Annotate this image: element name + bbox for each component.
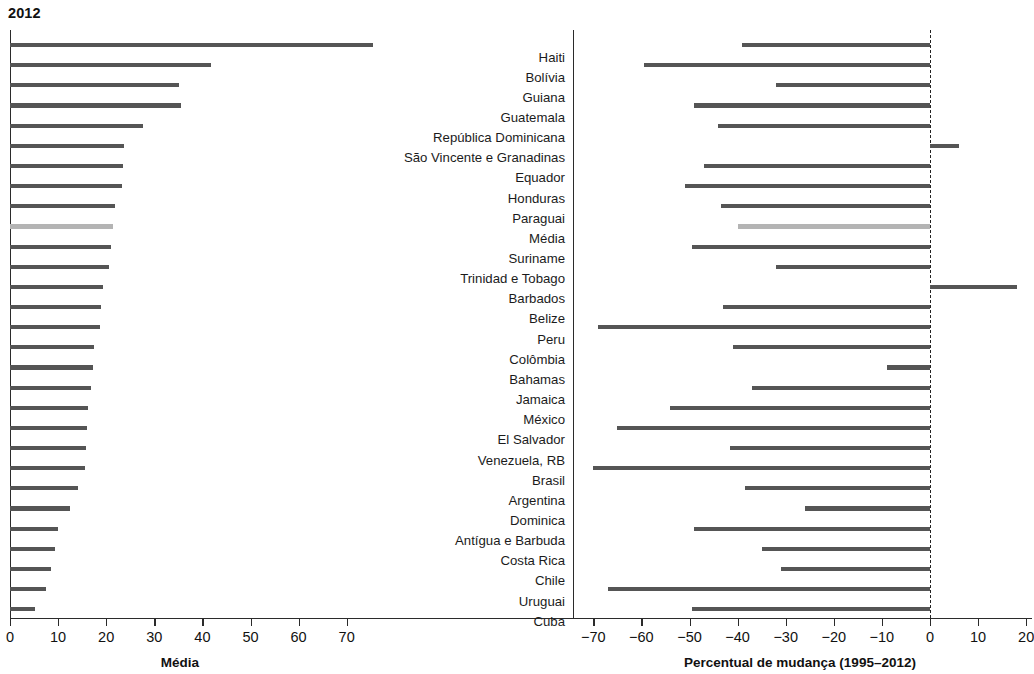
category-label-10: Média <box>330 232 565 245</box>
bar-right-7 <box>704 164 930 168</box>
bar-left-3 <box>10 83 179 87</box>
category-label-18: Jamaica <box>330 393 565 406</box>
category-label-28: Uruguai <box>330 595 565 608</box>
left-axis-tick-label-3: 20 <box>98 629 114 645</box>
left-axis-tick-label-1: 0 <box>6 629 14 645</box>
category-label-8: Honduras <box>330 192 565 205</box>
left-axis-tick-8 <box>347 618 348 626</box>
bar-right-15 <box>598 325 930 329</box>
bar-left-15 <box>10 325 100 329</box>
category-label-13: Barbados <box>330 292 565 305</box>
bar-left-8 <box>10 184 122 188</box>
right-axis-tick-1 <box>593 618 594 626</box>
category-label-1: Haiti <box>330 51 565 64</box>
left-axis-tick-label-4: 30 <box>146 629 162 645</box>
right-axis-tick-8 <box>930 618 931 626</box>
bar-right-3 <box>776 83 930 87</box>
category-label-21: Venezuela, RB <box>330 454 565 467</box>
bar-right-26 <box>762 547 930 551</box>
left-axis-tick-label-5: 40 <box>194 629 210 645</box>
bar-left-4 <box>10 103 181 107</box>
category-label-20: El Salvador <box>330 433 565 446</box>
right-axis-tick-2 <box>641 618 642 626</box>
bar-right-2 <box>644 63 930 67</box>
left-axis-tick-6 <box>251 618 252 626</box>
bar-left-29 <box>10 607 35 611</box>
category-label-19: México <box>330 413 565 426</box>
zero-reference-line <box>930 30 931 618</box>
right-axis-tick-label-10: 20 <box>1018 629 1034 645</box>
bar-left-13 <box>10 285 103 289</box>
bar-right-12 <box>776 265 930 269</box>
category-label-24: Dominica <box>330 514 565 527</box>
bar-left-22 <box>10 466 85 470</box>
bar-left-18 <box>10 386 91 390</box>
bar-left-12 <box>10 265 109 269</box>
right-axis-tick-7 <box>882 618 883 626</box>
bar-left-20 <box>10 426 87 430</box>
category-label-column: HaitiBolíviaGuianaGuatemalaRepública Dom… <box>330 30 565 618</box>
right-axis-tick-label-2: −60 <box>629 629 654 645</box>
page-title: 2012 <box>8 5 41 21</box>
bar-left-28 <box>10 587 46 591</box>
panel-divider-spine <box>573 30 574 618</box>
bar-right-20 <box>617 426 930 430</box>
bar-right-9 <box>721 204 930 208</box>
bar-right-1 <box>742 43 930 47</box>
right-panel-percent-change <box>573 30 1032 618</box>
left-axis-tick-5 <box>202 618 203 626</box>
category-label-16: Colômbia <box>330 353 565 366</box>
category-label-12: Trinidad e Tobago <box>330 272 565 285</box>
right-axis-tick-label-4: −40 <box>725 629 750 645</box>
category-label-23: Argentina <box>330 494 565 507</box>
bar-right-4 <box>694 103 930 107</box>
bar-left-6 <box>10 144 124 148</box>
right-axis-tick-label-7: −10 <box>870 629 895 645</box>
bar-right-17 <box>887 365 930 369</box>
bar-left-9 <box>10 204 115 208</box>
bar-left-19 <box>10 406 88 410</box>
bar-right-22 <box>593 466 930 470</box>
category-label-29: Cuba <box>330 615 565 628</box>
category-label-9: Paraguai <box>330 212 565 225</box>
bar-right-6 <box>930 144 959 148</box>
category-label-5: República Dominicana <box>330 131 565 144</box>
left-axis-tick-label-8: 70 <box>339 629 355 645</box>
bar-right-11 <box>692 245 930 249</box>
right-axis-title: Percentual de mudança (1995–2012) <box>684 655 916 670</box>
bar-right-27 <box>781 567 930 571</box>
bar-left-26 <box>10 547 55 551</box>
left-axis-tick-2 <box>58 618 59 626</box>
bar-right-5 <box>718 124 930 128</box>
category-label-17: Bahamas <box>330 373 565 386</box>
bar-left-10 <box>10 224 113 228</box>
bar-left-17 <box>10 365 93 369</box>
bar-left-5 <box>10 124 143 128</box>
bar-left-24 <box>10 506 70 510</box>
right-axis-tick-label-1: −70 <box>581 629 606 645</box>
category-label-11: Suriname <box>330 252 565 265</box>
bar-right-18 <box>752 386 930 390</box>
bar-right-25 <box>694 527 930 531</box>
bar-left-23 <box>10 486 78 490</box>
bar-right-16 <box>733 345 930 349</box>
left-axis-tick-label-7: 60 <box>291 629 307 645</box>
right-axis-tick-label-5: −30 <box>773 629 798 645</box>
right-axis-tick-10 <box>1026 618 1027 626</box>
category-label-6: São Vincente e Granadinas <box>330 151 565 164</box>
bar-right-21 <box>730 446 930 450</box>
bar-left-2 <box>10 63 211 67</box>
right-axis-tick-9 <box>978 618 979 626</box>
bar-left-16 <box>10 345 94 349</box>
bar-right-10 <box>738 224 930 228</box>
right-axis-tick-6 <box>834 618 835 626</box>
category-label-15: Peru <box>330 333 565 346</box>
right-axis-tick-4 <box>738 618 739 626</box>
category-label-2: Bolívia <box>330 71 565 84</box>
bar-left-11 <box>10 245 111 249</box>
left-axis-title: Média <box>161 655 199 670</box>
bar-left-25 <box>10 527 58 531</box>
bar-right-23 <box>745 486 930 490</box>
right-axis-tick-label-9: 10 <box>970 629 986 645</box>
